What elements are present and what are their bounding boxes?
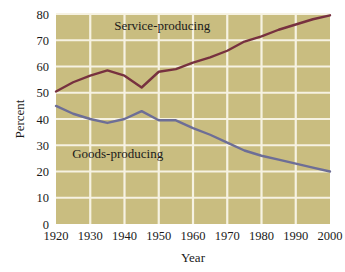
y-tick-label: 30 xyxy=(37,139,50,153)
y-tick-label: 10 xyxy=(37,191,50,205)
y-axis-title: Percent xyxy=(12,99,27,138)
x-tick-label: 1960 xyxy=(181,229,206,243)
y-tick-label: 50 xyxy=(37,86,50,100)
x-axis-tick-labels: 192019301940195019601970198019902000 xyxy=(44,229,343,243)
y-tick-label: 70 xyxy=(37,34,50,48)
x-tick-label: 1930 xyxy=(78,229,103,243)
x-tick-label: 1950 xyxy=(146,229,171,243)
line-chart: 80706050403020100 1920193019401950196019… xyxy=(0,0,345,272)
x-tick-label: 1980 xyxy=(249,229,274,243)
x-axis-title: Year xyxy=(181,250,206,265)
x-tick-label: 2000 xyxy=(318,229,343,243)
x-tick-label: 1920 xyxy=(44,229,69,243)
x-tick-label: 1990 xyxy=(283,229,308,243)
x-tick-label: 1970 xyxy=(215,229,240,243)
series-label-service-producing: Service-producing xyxy=(114,18,211,33)
chart-container: 80706050403020100 1920193019401950196019… xyxy=(0,0,345,272)
y-tick-label: 60 xyxy=(37,60,50,74)
series-label-goods-producing: Goods-producing xyxy=(72,146,163,161)
x-tick-label: 1940 xyxy=(112,229,137,243)
y-tick-label: 20 xyxy=(37,165,50,179)
y-tick-label: 40 xyxy=(37,113,50,127)
y-tick-label: 80 xyxy=(37,8,50,22)
y-axis-tick-labels: 80706050403020100 xyxy=(37,8,50,232)
